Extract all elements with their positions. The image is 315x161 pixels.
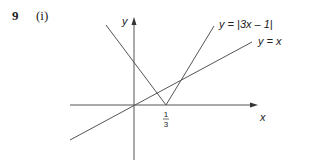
fraction-numerator: 1 — [164, 110, 169, 119]
x-axis-label: x — [259, 111, 266, 123]
tick-label-one-third: 1 3 — [163, 110, 169, 129]
y-axis-label: y — [121, 15, 129, 27]
abs-value-curve — [106, 25, 214, 105]
y-axis-arrow-icon — [132, 17, 137, 25]
fraction-denominator: 3 — [164, 120, 169, 129]
x-axis — [70, 103, 258, 108]
y-axis — [132, 17, 137, 160]
line-label: y = x — [257, 35, 282, 47]
graph: y x y = |3x – 1| y = x 1 3 — [0, 0, 315, 161]
x-axis-arrow-icon — [250, 103, 258, 108]
identity-line — [70, 42, 252, 140]
abs-curve-label: y = |3x – 1| — [218, 18, 273, 30]
